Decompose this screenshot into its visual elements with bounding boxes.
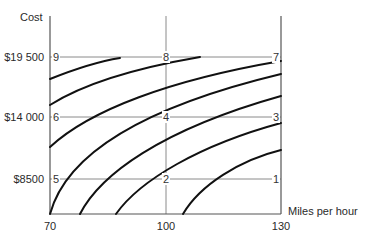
y-tick-19500: $19 500	[0, 51, 44, 63]
contour-label-1: 1	[272, 173, 280, 185]
contour-label-5: 5	[52, 173, 60, 185]
x-tick-70: 70	[35, 220, 65, 232]
contour-label-9: 9	[52, 51, 60, 63]
curve-6	[116, 123, 281, 214]
curve-5	[80, 96, 281, 214]
contour-label-6: 6	[52, 111, 60, 123]
contour-label-2: 2	[162, 173, 170, 185]
contour-label-3: 3	[272, 111, 280, 123]
contour-label-7: 7	[272, 51, 280, 63]
x-tick-130: 130	[266, 220, 296, 232]
curve-7	[183, 150, 281, 214]
y-axis-label: Cost	[20, 11, 43, 23]
y-tick-8500: $8500	[0, 173, 44, 185]
chart: Cost $19 500 $14 000 $8500 9 6 5 8 4 2 7…	[0, 0, 367, 241]
x-tick-100: 100	[151, 220, 181, 232]
contour-label-8: 8	[162, 51, 170, 63]
x-axis-label: Miles per hour	[288, 205, 358, 217]
curve-1	[50, 58, 120, 79]
curve-2	[50, 57, 200, 105]
y-tick-14000: $14 000	[0, 111, 44, 123]
contour-label-4: 4	[162, 111, 170, 123]
